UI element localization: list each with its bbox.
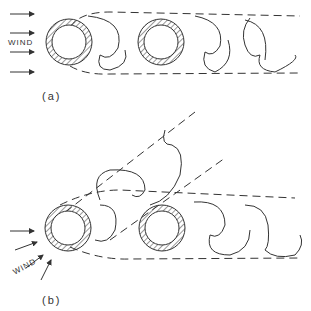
caption-b: (b) — [42, 294, 61, 306]
diagram: WIND (a) WIND (b) — [0, 0, 311, 311]
wind-label-a: WIND — [8, 38, 33, 47]
wake-diagram-svg — [0, 0, 311, 311]
caption-a: (a) — [42, 90, 61, 102]
